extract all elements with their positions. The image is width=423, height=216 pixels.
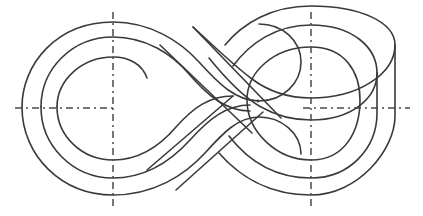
lemniscate-spiral-figure [0, 0, 423, 216]
diagram-canvas [0, 0, 423, 216]
right-loop-center-dot [257, 100, 260, 103]
markers-group [257, 100, 260, 103]
